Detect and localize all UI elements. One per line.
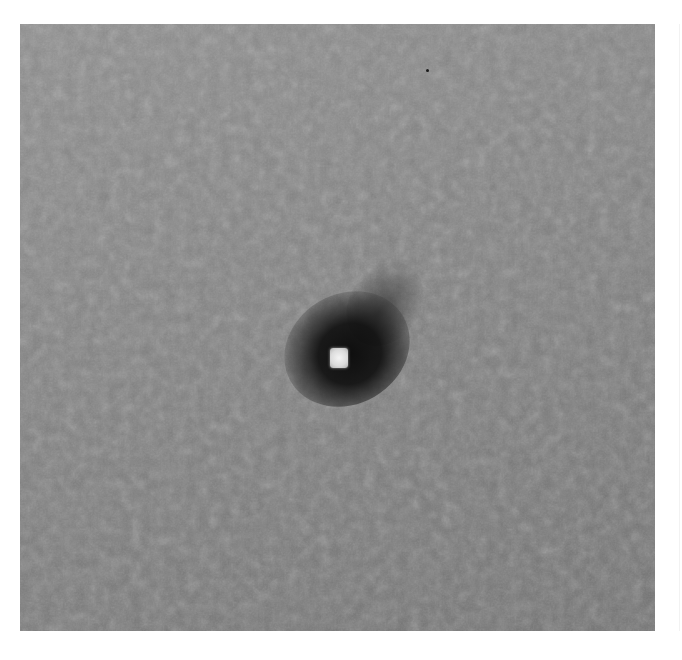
edge-line	[679, 24, 680, 631]
dark-speck	[426, 69, 429, 72]
bright-spot	[330, 348, 348, 368]
micrograph-image	[20, 24, 655, 631]
